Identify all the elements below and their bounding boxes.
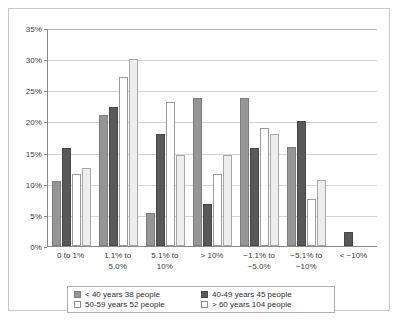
bar xyxy=(62,148,71,246)
bar xyxy=(297,121,306,246)
x-axis-label: −5.1% to −10% xyxy=(283,250,330,272)
y-axis-tick-label: 30% xyxy=(26,56,42,65)
y-axis-tick-mark xyxy=(44,185,47,186)
y-axis-tick-label: 35% xyxy=(26,25,42,34)
bars-layer xyxy=(48,29,377,246)
y-axis-tick-label: 0% xyxy=(30,243,42,252)
legend-label: < 40 years 38 people xyxy=(85,290,160,299)
y-axis-tick-mark xyxy=(44,91,47,92)
bar xyxy=(287,147,296,246)
x-axis-label: −1.1% to −5.0% xyxy=(236,250,283,272)
bar xyxy=(99,115,108,246)
bar xyxy=(317,180,326,246)
y-axis-tick-mark xyxy=(44,216,47,217)
y-axis-tick-mark xyxy=(44,29,47,30)
legend-swatch-icon xyxy=(201,291,208,298)
y-axis-tick-label: 15% xyxy=(26,149,42,158)
y-axis-tick-label: 25% xyxy=(26,87,42,96)
y-axis-tick-label: 5% xyxy=(30,211,42,220)
legend-swatch-icon xyxy=(74,301,81,308)
bar xyxy=(213,174,222,246)
bar xyxy=(193,98,202,246)
y-axis-tick-label: 10% xyxy=(26,180,42,189)
bar xyxy=(82,168,91,246)
bar xyxy=(344,232,353,246)
bar xyxy=(72,174,81,246)
bar xyxy=(260,128,269,246)
bar xyxy=(146,213,155,246)
legend-swatch-icon xyxy=(201,301,208,308)
bar-group xyxy=(189,29,236,246)
bar xyxy=(240,98,249,246)
bar xyxy=(203,204,212,246)
bar-group xyxy=(283,29,330,246)
legend-label: 50-59 years 52 people xyxy=(85,300,165,309)
legend-item[interactable]: < 40 years 38 people xyxy=(74,290,201,299)
x-axis-label: 0 to 1% xyxy=(47,250,94,272)
y-axis-tick-mark xyxy=(44,60,47,61)
bar xyxy=(176,155,185,246)
plot-inner xyxy=(47,29,377,247)
bar-group xyxy=(95,29,142,246)
bar xyxy=(270,134,279,246)
y-axis-tick-label: 20% xyxy=(26,118,42,127)
y-axis-tick-mark xyxy=(44,247,47,248)
legend-label: > 60 years 104 people xyxy=(212,300,291,309)
legend-swatch-icon xyxy=(74,291,81,298)
x-axis-label: > 10% xyxy=(188,250,235,272)
x-axis-label: 5.1% to 10% xyxy=(141,250,188,272)
bar xyxy=(52,181,61,246)
bar-group xyxy=(236,29,283,246)
bar xyxy=(166,102,175,246)
plot-area: 0%5%10%15%20%25%30%35% xyxy=(47,29,377,247)
bar xyxy=(109,107,118,246)
x-axis-label: < −10% xyxy=(330,250,377,272)
bar-group xyxy=(48,29,95,246)
legend-item[interactable]: 40-49 years 45 people xyxy=(201,290,328,299)
bar xyxy=(250,148,259,246)
x-axis-labels: 0 to 1%1.1% to 5.0%5.1% to 10%> 10%−1.1%… xyxy=(47,250,377,272)
chart-frame: 0%5%10%15%20%25%30%35% 0 to 1%1.1% to 5.… xyxy=(8,8,390,311)
y-axis-tick-mark xyxy=(44,122,47,123)
bar xyxy=(307,199,316,246)
y-axis-tick-mark xyxy=(44,154,47,155)
legend-item[interactable]: > 60 years 104 people xyxy=(201,300,328,309)
bar xyxy=(129,59,138,246)
legend-item[interactable]: 50-59 years 52 people xyxy=(74,300,201,309)
bar xyxy=(223,155,232,246)
bar-group xyxy=(330,29,377,246)
bar xyxy=(156,134,165,246)
bar-group xyxy=(142,29,189,246)
x-axis-label: 1.1% to 5.0% xyxy=(94,250,141,272)
bar xyxy=(119,77,128,246)
legend-label: 40-49 years 45 people xyxy=(212,290,292,299)
chart-legend: < 40 years 38 people40-49 years 45 peopl… xyxy=(67,286,335,313)
